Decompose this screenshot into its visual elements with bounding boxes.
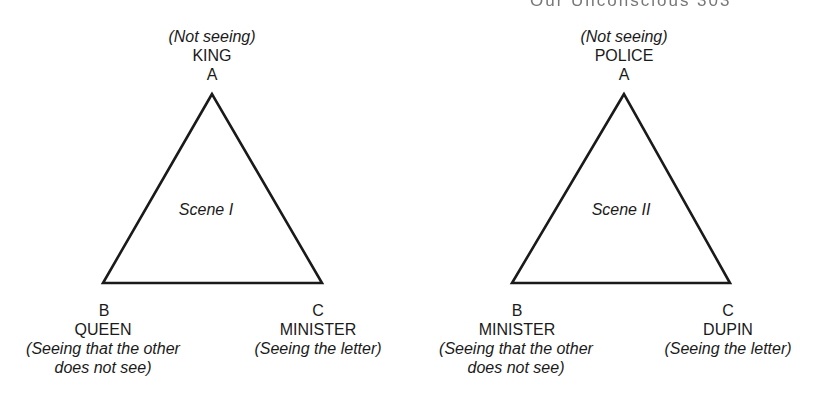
vertex-a-role: KING [168, 46, 255, 65]
scene-2-vertex-b-label: B MINISTER [479, 301, 555, 339]
vertex-b-letter: B [479, 301, 555, 320]
vertex-a-note: (Not seeing) [168, 27, 255, 46]
scene-1-vertex-b-label: B QUEEN [76, 301, 133, 339]
vertex-b-role: MINISTER [479, 320, 555, 339]
scene-1-vertex-a-label: (Not seeing) KING A [168, 27, 255, 84]
scene-2-vertex-a-label: (Not seeing) POLICE A [580, 27, 667, 84]
vertex-b-note-line2: does not see) [439, 358, 593, 377]
vertex-c-letter: C [254, 301, 381, 320]
scene-2-vertex-b-note: (Seeing that the other does not see) [439, 339, 593, 377]
vertex-c-note: (Seeing the letter) [664, 339, 791, 358]
scene-2-triangle [512, 94, 730, 283]
vertex-c-note: (Seeing the letter) [254, 339, 381, 358]
scene-2-vertex-c-label: C DUPIN (Seeing the letter) [664, 301, 791, 358]
vertex-c-role: MINISTER [254, 320, 381, 339]
vertex-b-role: QUEEN [75, 320, 132, 339]
vertex-a-letter: A [168, 65, 255, 84]
scene-2-title: Scene II [592, 201, 651, 219]
scene-1-vertex-c-label: C MINISTER (Seeing the letter) [254, 301, 381, 358]
vertex-c-role: DUPIN [664, 320, 791, 339]
vertex-c-letter: C [664, 301, 791, 320]
vertex-a-note: (Not seeing) [580, 27, 667, 46]
vertex-a-letter: A [580, 65, 667, 84]
vertex-b-note-line1: (Seeing that the other [439, 339, 593, 358]
scene-1-triangle [103, 94, 322, 283]
vertex-b-note-line2: does not see) [26, 358, 180, 377]
vertex-b-letter: B [76, 301, 133, 320]
vertex-b-note-line1: (Seeing that the other [26, 339, 180, 358]
scene-1-title: Scene I [179, 201, 233, 219]
scene-1-vertex-b-note: (Seeing that the other does not see) [26, 339, 180, 377]
vertex-a-role: POLICE [580, 46, 667, 65]
